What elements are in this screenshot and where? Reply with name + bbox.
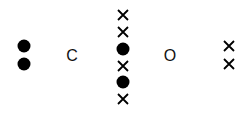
center-column-cross-icon bbox=[117, 93, 130, 106]
right-group-cross-icon bbox=[223, 58, 236, 71]
center-column-dot-icon bbox=[117, 43, 130, 56]
center-column-dot-icon bbox=[117, 76, 130, 89]
label-c: C bbox=[66, 48, 78, 64]
left-group-dot-icon bbox=[18, 40, 31, 53]
left-group-dot-icon bbox=[18, 58, 31, 71]
center-column-cross-icon bbox=[117, 26, 130, 39]
right-group-cross-icon bbox=[223, 40, 236, 53]
center-column-cross-icon bbox=[117, 9, 130, 22]
center-column-cross-icon bbox=[117, 60, 130, 73]
label-o: O bbox=[164, 48, 176, 64]
